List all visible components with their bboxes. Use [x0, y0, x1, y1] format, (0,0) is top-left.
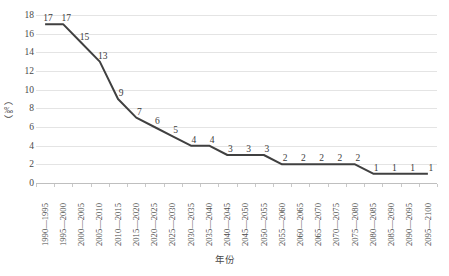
x-axis-tick	[419, 184, 420, 187]
x-axis-tick-label: 2085—2090	[387, 188, 396, 246]
x-axis-tick	[437, 184, 438, 187]
y-axis-tick-label: 14	[12, 47, 34, 57]
x-axis-tick-label: 2060—2065	[296, 188, 305, 246]
x-axis-tick-label: 2010—2015	[114, 188, 123, 246]
y-axis-tick-label: 2	[12, 159, 34, 169]
x-axis-tick-label: 2075—2080	[351, 188, 360, 246]
x-axis-tick	[182, 184, 183, 187]
data-label: 4	[192, 135, 197, 145]
data-label: 15	[80, 32, 90, 42]
x-axis-tick	[382, 184, 383, 187]
data-label: 2	[337, 153, 342, 163]
x-axis-tick	[273, 184, 274, 187]
x-axis-tick-label: 2095—2100	[424, 188, 433, 246]
y-axis-tick-label: 18	[12, 10, 34, 20]
x-axis-tick-label: 2000—2005	[77, 188, 86, 246]
data-label: 17	[62, 13, 72, 23]
x-axis-tick	[72, 184, 73, 187]
x-axis-tick-label: 2015—2020	[132, 188, 141, 246]
x-axis-tick-labels: 1990—19951995—20002000—20052005—20102010…	[36, 188, 437, 246]
data-label: 7	[137, 107, 142, 117]
y-axis-tick-label: 8	[12, 103, 34, 113]
y-axis-tick-label: 10	[12, 85, 34, 95]
data-label: 1	[374, 163, 379, 173]
x-axis-tick-label: 2035—2040	[205, 188, 214, 246]
plot-area: 17171513976544333222221111	[36, 15, 437, 183]
x-axis-tick-label: 2050—2055	[260, 188, 269, 246]
data-label: 2	[356, 153, 361, 163]
y-axis-tick-label: 0	[12, 178, 34, 188]
x-axis-tick-label: 1995—2000	[59, 188, 68, 246]
x-axis-tick	[109, 184, 110, 187]
x-axis-ticks	[36, 184, 437, 187]
line-chart: （‰） 181614121086420 17171513976544333222…	[0, 0, 449, 276]
data-label: 9	[119, 88, 124, 98]
x-axis-tick-label: 1990—1995	[41, 188, 50, 246]
x-axis-tick	[255, 184, 256, 187]
x-axis-tick-label: 2055—2060	[278, 188, 287, 246]
x-axis-tick-label: 2030—2035	[187, 188, 196, 246]
x-axis-tick-label: 2065—2070	[314, 188, 323, 246]
x-axis-tick	[36, 184, 37, 187]
x-axis-tick	[364, 184, 365, 187]
x-axis-tick	[328, 184, 329, 187]
data-point-labels: 17171513976544333222221111	[36, 15, 437, 183]
x-axis-tick	[200, 184, 201, 187]
x-axis-tick	[309, 184, 310, 187]
x-axis-tick	[91, 184, 92, 187]
data-label: 6	[155, 116, 160, 126]
data-label: 1	[392, 163, 397, 173]
data-label: 17	[43, 13, 53, 23]
x-axis-tick-label: 2020—2025	[150, 188, 159, 246]
x-axis-tick	[401, 184, 402, 187]
data-label: 3	[246, 144, 251, 154]
data-label: 4	[210, 135, 215, 145]
data-label: 1	[429, 163, 434, 173]
x-axis-tick-label: 2090—2095	[405, 188, 414, 246]
y-axis-tick-label: 4	[12, 141, 34, 151]
x-axis-title: 年份	[0, 252, 449, 266]
x-axis-tick-label: 2005—2010	[95, 188, 104, 246]
data-label: 5	[173, 125, 178, 135]
x-axis-tick	[54, 184, 55, 187]
data-label: 3	[264, 144, 269, 154]
x-axis-tick-label: 2070—2075	[332, 188, 341, 246]
x-axis-tick	[145, 184, 146, 187]
data-label: 2	[319, 153, 324, 163]
x-axis-tick-label: 2025—2030	[168, 188, 177, 246]
y-axis-tick-label: 12	[12, 66, 34, 76]
x-axis-tick	[127, 184, 128, 187]
x-axis-tick-label: 2040—2045	[223, 188, 232, 246]
x-axis-tick	[346, 184, 347, 187]
x-axis-tick	[218, 184, 219, 187]
y-axis-tick-label: 6	[12, 122, 34, 132]
y-axis-tick-label: 16	[12, 29, 34, 39]
data-label: 13	[98, 51, 108, 61]
data-label: 2	[301, 153, 306, 163]
x-axis-tick	[291, 184, 292, 187]
y-axis-tick-labels: 181614121086420	[12, 0, 34, 190]
x-axis-tick	[237, 184, 238, 187]
data-label: 2	[283, 153, 288, 163]
data-label: 1	[410, 163, 415, 173]
x-axis-tick	[164, 184, 165, 187]
x-axis-tick-label: 2045—2050	[241, 188, 250, 246]
x-axis-tick-label: 2080—2085	[369, 188, 378, 246]
data-label: 3	[228, 144, 233, 154]
